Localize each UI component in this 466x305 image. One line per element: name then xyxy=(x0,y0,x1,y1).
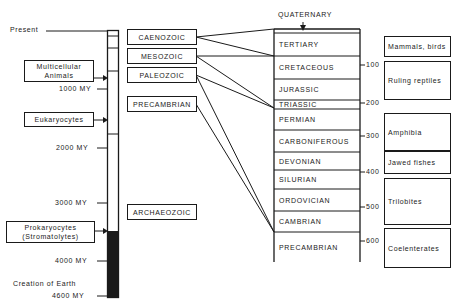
period-tick-600: 600 xyxy=(366,237,379,244)
era-archaeozoic: ARCHAEOZOIC xyxy=(127,204,197,220)
lifeform-ruling-reptiles: Ruling reptiles xyxy=(384,61,451,100)
life-event-label: Multicellular xyxy=(37,62,82,71)
period-cretaceous: CRETACEOUS xyxy=(274,56,360,79)
period-jurassic: JURASSIC xyxy=(274,79,360,100)
present-label: Present xyxy=(10,26,38,33)
era-mesozoic: MESOZOIC xyxy=(127,48,197,64)
lifeform-coelenterates: Coelenterates xyxy=(384,228,451,268)
lifeform-amphibia: Amphibia xyxy=(384,113,451,151)
period-permian: PERMIAN xyxy=(274,109,360,130)
period-tick-100: 100 xyxy=(366,61,379,68)
lifeform-trilobites: Trilobites xyxy=(384,178,451,225)
period-devonian: DEVONIAN xyxy=(274,152,360,170)
period-tick-200: 200 xyxy=(366,99,379,106)
tick-label-4600: 4600 MY xyxy=(52,292,84,299)
tick-label-1000: 1000 MY xyxy=(59,85,91,92)
era-precambrian: PRECAMBRIAN xyxy=(127,96,197,112)
tick-label-2000: 2000 MY xyxy=(56,144,88,151)
life-event-multicellular: Multicellular Animals xyxy=(24,60,94,82)
era-paleozoic: PALEOZOIC xyxy=(127,67,197,83)
lifeform-mammals-birds: Mammals, birds xyxy=(384,36,451,57)
era-caenozoic: CAENOZOIC xyxy=(127,29,197,45)
lifeform-jawed-fishes: Jawed fishes xyxy=(384,151,451,174)
period-silurian: SILURIAN xyxy=(274,170,360,189)
period-tick-400: 400 xyxy=(366,168,379,175)
life-event-label: Prokaryocytes xyxy=(24,223,76,232)
life-event-label: (Stromatolytes) xyxy=(22,232,78,241)
tick-label-4000: 4000 MY xyxy=(55,257,87,264)
life-event-label: Eukaryocytes xyxy=(34,115,83,124)
period-tertiary: TERTIARY xyxy=(274,33,360,56)
period-triassic: TRIASSIC xyxy=(274,100,360,109)
tick-label-3000: 3000 MY xyxy=(55,199,87,206)
period-carboniferous: CARBONIFEROUS xyxy=(274,130,360,152)
life-event-label: Animals xyxy=(44,71,73,80)
period-ordovician: ORDOVICIAN xyxy=(274,189,360,211)
period-precambrian: PRECAMBRIAN xyxy=(274,232,360,262)
prokaryote-fill xyxy=(108,231,119,298)
period-tick-500: 500 xyxy=(366,203,379,210)
life-event-eukaryocytes: Eukaryocytes xyxy=(24,112,94,127)
life-event-prokaryocytes: Prokaryocytes (Stromatolytes) xyxy=(6,221,95,243)
creation-caption: Creation of Earth xyxy=(13,280,76,287)
period-column: TERTIARY CRETACEOUS JURASSIC TRIASSIC PE… xyxy=(274,0,360,305)
period-tick-300: 300 xyxy=(366,132,379,139)
period-cambrian: CAMBRIAN xyxy=(274,211,360,232)
